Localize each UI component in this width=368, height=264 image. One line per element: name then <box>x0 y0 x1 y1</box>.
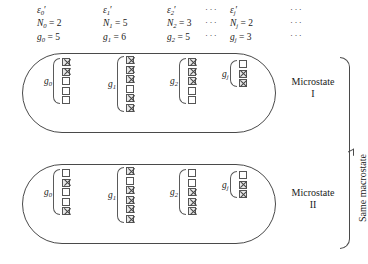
state-cell <box>126 205 134 213</box>
state-cell <box>62 87 70 95</box>
microstate-1-label: Microstate I <box>281 76 345 100</box>
header-dots-n-2: ··· <box>205 17 218 27</box>
group-brace <box>53 169 60 215</box>
state-cell <box>188 188 196 196</box>
microstate-1-label-line1: Microstate <box>281 76 345 88</box>
microstate-1-group-gj: gj <box>222 60 247 87</box>
degeneracy-1: g1 = 6 <box>103 31 128 44</box>
state-cell <box>239 60 247 68</box>
group-brace <box>117 56 124 112</box>
state-cell <box>126 56 134 64</box>
group-brace <box>179 58 186 104</box>
occupancy-j: Nj = 2 <box>230 17 253 30</box>
microstate-1-group-g0: g0 <box>44 58 70 104</box>
group-brace <box>230 60 237 87</box>
state-cell <box>188 68 196 76</box>
header-dots-eps-j: ··· <box>290 4 303 14</box>
energy-symbol-0: ε0′ <box>37 4 62 17</box>
state-cells-gj <box>239 60 247 87</box>
state-cell <box>239 171 247 179</box>
header-dots-g-2: ··· <box>205 30 218 40</box>
group-label-g0: g0 <box>44 76 52 86</box>
state-cell <box>126 177 134 185</box>
state-cell <box>188 179 196 187</box>
degeneracy-2: g2 = 5 <box>167 31 192 44</box>
state-cell <box>188 87 196 95</box>
energy-symbol-j: εj′ <box>230 4 253 17</box>
state-cell <box>62 188 70 196</box>
occupancy-2: N2 = 3 <box>167 17 192 30</box>
group-brace <box>53 58 60 104</box>
state-cell <box>126 66 134 74</box>
group-label-gj: gj <box>222 180 229 190</box>
state-cell <box>126 215 134 223</box>
microstate-1-group-g2: g2 <box>170 58 196 104</box>
state-cell <box>188 169 196 177</box>
state-cells-g2 <box>188 58 196 104</box>
state-cells-g2 <box>188 169 196 215</box>
header-dots-g-j: ··· <box>290 30 303 40</box>
state-cell <box>126 94 134 102</box>
state-cell <box>188 77 196 85</box>
header-column-level-1: ε1′ N1 = 5 g1 = 6 <box>103 4 128 44</box>
state-cell <box>188 198 196 206</box>
microstate-2-label-line2: II <box>281 199 345 211</box>
degeneracy-0: g0 = 5 <box>37 31 62 44</box>
microstate-1-label-line2: I <box>281 88 345 100</box>
microstate-2-group-g0: g0 <box>44 169 70 215</box>
state-cell <box>62 58 70 66</box>
state-cell <box>126 75 134 83</box>
group-label-g0: g0 <box>44 187 52 197</box>
header-column-level-0: ε0′ N0 = 2 g0 = 5 <box>37 4 62 44</box>
state-cells-gj <box>239 171 247 198</box>
energy-symbol-1: ε1′ <box>103 4 128 17</box>
state-cell <box>239 181 247 189</box>
state-cells-g0 <box>62 169 70 215</box>
header-dots-eps-2: ··· <box>205 4 218 14</box>
group-brace <box>230 171 237 198</box>
state-cells-g1 <box>126 56 134 112</box>
group-label-g1: g1 <box>108 79 116 89</box>
state-cell <box>62 96 70 104</box>
energy-symbol-2: ε2′ <box>167 4 192 17</box>
microstate-2-group-g2: g2 <box>170 169 196 215</box>
state-cell <box>62 207 70 215</box>
state-cell <box>239 79 247 87</box>
macrostate-brace-nib <box>348 148 354 158</box>
state-cell <box>62 198 70 206</box>
state-cell <box>62 68 70 76</box>
state-cell <box>126 167 134 175</box>
group-label-g1: g1 <box>108 190 116 200</box>
degeneracy-j: gj = 3 <box>230 31 253 44</box>
microstate-1-group-g1: g1 <box>108 56 134 112</box>
state-cell <box>188 58 196 66</box>
header-dots-n-j: ··· <box>290 17 303 27</box>
state-cell <box>62 77 70 85</box>
state-cell <box>62 179 70 187</box>
macrostate-brace <box>340 57 350 249</box>
group-label-gj: gj <box>222 69 229 79</box>
group-brace <box>179 169 186 215</box>
microstate-2-label-line1: Microstate <box>281 187 345 199</box>
microstate-2-group-g1: g1 <box>108 167 134 223</box>
energy-level-header: ε0′ N0 = 2 g0 = 5 ε1′ N1 = 5 g1 = 6 ε2′ … <box>0 0 363 48</box>
state-cell <box>239 70 247 78</box>
state-cells-g1 <box>126 167 134 223</box>
state-cell <box>188 207 196 215</box>
state-cells-g0 <box>62 58 70 104</box>
occupancy-1: N1 = 5 <box>103 17 128 30</box>
state-cell <box>188 96 196 104</box>
state-cell <box>62 169 70 177</box>
state-cell <box>126 104 134 112</box>
microstate-2-group-gj: gj <box>222 171 247 198</box>
header-column-level-2: ε2′ N2 = 3 g2 = 5 <box>167 4 192 44</box>
macrostate-label: Same macrostate <box>357 154 368 222</box>
group-label-g2: g2 <box>170 187 178 197</box>
microstate-2-label: Microstate II <box>281 187 345 211</box>
header-column-level-j: εj′ Nj = 2 gj = 3 <box>230 4 253 44</box>
occupancy-0: N0 = 2 <box>37 17 62 30</box>
state-cell <box>239 190 247 198</box>
state-cell <box>126 85 134 93</box>
state-cell <box>126 186 134 194</box>
